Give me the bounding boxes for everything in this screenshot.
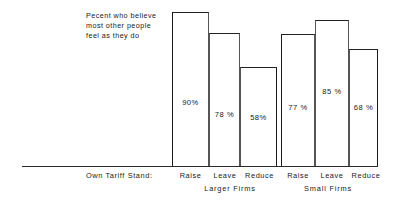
bar-value-larger-firms-leave: 78 % xyxy=(210,110,239,119)
axis-caption: Own Tariff Stand: xyxy=(86,171,153,180)
bar-chart: Pecent who believe most other people fee… xyxy=(0,0,399,208)
bar-larger-firms-leave: 78 % xyxy=(209,33,240,167)
bar-value-small-firms-raise: 77 % xyxy=(282,103,314,112)
bar-value-larger-firms-raise: 90% xyxy=(173,98,208,107)
bar-larger-firms-raise: 90% xyxy=(172,12,209,167)
caption-line-2: most other people xyxy=(86,21,170,31)
bar-value-larger-firms-reduce: 58% xyxy=(241,113,276,122)
bar-value-small-firms-reduce: 68 % xyxy=(350,103,377,112)
tick-label-larger-firms-raise: Raise xyxy=(170,171,211,180)
caption-line-1: Pecent who believe xyxy=(86,11,170,21)
bar-group-larger-firms: 90% 78 % 58% xyxy=(172,7,277,167)
tick-label-larger-firms-reduce: Reduce xyxy=(239,171,280,180)
bar-value-small-firms-leave: 85 % xyxy=(316,87,348,96)
group-label-small-firms: Small Firms xyxy=(283,184,373,193)
bar-group-small-firms: 77 % 85 % 68 % xyxy=(281,7,378,167)
bar-small-firms-reduce: 68 % xyxy=(349,49,378,167)
chart-caption: Pecent who believe most other people fee… xyxy=(86,11,170,42)
group-label-larger-firms: Larger Firms xyxy=(185,184,275,193)
bar-small-firms-raise: 77 % xyxy=(281,34,315,167)
caption-line-3: feel as they do xyxy=(86,31,170,41)
x-axis-baseline xyxy=(22,166,378,167)
tick-label-small-firms-reduce: Reduce xyxy=(346,171,386,180)
bar-small-firms-leave: 85 % xyxy=(315,20,349,167)
bar-larger-firms-reduce: 58% xyxy=(240,67,277,167)
tick-label-small-firms-raise: Raise xyxy=(279,171,317,180)
